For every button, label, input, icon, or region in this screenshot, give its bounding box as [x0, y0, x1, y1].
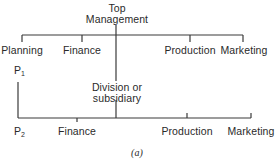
- planning-label: Planning: [1, 45, 43, 56]
- p2-subscript: 2: [21, 131, 25, 138]
- p1-label: P1: [14, 65, 25, 79]
- p1-subscript: 1: [21, 70, 25, 77]
- p2-label: P2: [14, 126, 25, 140]
- finance-top-label: Finance: [63, 45, 101, 56]
- top-management-label-line2: Management: [86, 14, 148, 25]
- finance-bottom-label: Finance: [58, 126, 96, 137]
- figure-caption: (a): [131, 147, 143, 158]
- production-bottom-label: Production: [161, 126, 212, 137]
- marketing-top-label: Marketing: [220, 45, 267, 56]
- division-label-line2: subsidiary: [93, 93, 141, 104]
- marketing-bottom-label: Marketing: [227, 126, 274, 137]
- production-top-label: Production: [164, 45, 215, 56]
